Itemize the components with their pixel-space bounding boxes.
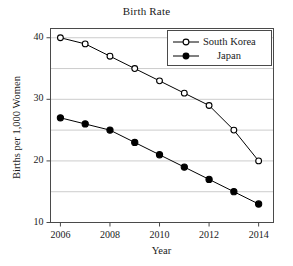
y-tick-label: 40 [20,31,44,42]
y-tick-label: 30 [20,92,44,103]
data-point [82,121,88,127]
data-point [82,41,88,47]
data-point [256,201,262,207]
x-tick-label: 2006 [40,229,80,240]
data-point [157,78,163,84]
y-tick-label: 10 [20,216,44,227]
data-point [181,90,187,96]
data-point [132,139,138,145]
data-point [231,189,237,195]
data-point [206,176,212,182]
legend-label-south-korea: South Korea [203,36,256,47]
data-point [256,158,262,164]
data-point [107,127,113,133]
data-point [107,53,113,59]
x-tick-label: 2008 [90,229,130,240]
data-point [57,115,63,121]
data-point [206,103,212,109]
data-point [58,35,64,41]
birth-rate-chart-figure: Birth Rate Births per 1,000 Women Year S… [0,0,293,266]
data-point [156,152,162,158]
data-point [181,164,187,170]
x-tick-label: 2012 [189,229,229,240]
axis-ticks-group [47,38,259,227]
legend-marker-south-korea [183,39,189,45]
legend-label-japan: Japan [217,50,241,61]
data-point [231,127,237,133]
x-tick-label: 2010 [140,229,180,240]
y-tick-label: 20 [20,154,44,165]
x-tick-label: 2014 [239,229,279,240]
legend-marker-japan [183,53,189,59]
data-point [132,66,138,72]
